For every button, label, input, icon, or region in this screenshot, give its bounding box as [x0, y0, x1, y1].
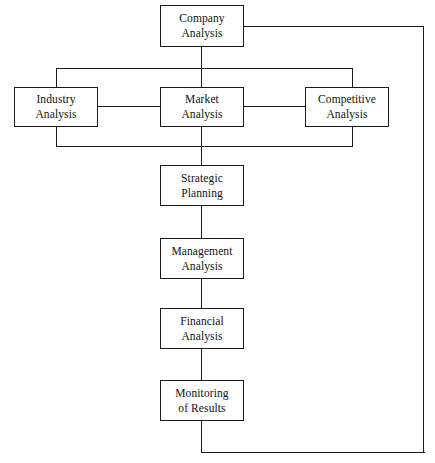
- node-competitive[interactable]: Competitive Analysis: [305, 87, 389, 127]
- node-strategic-label: Strategic Planning: [179, 171, 225, 200]
- node-market-label: Market Analysis: [179, 92, 224, 121]
- node-monitoring[interactable]: Monitoring of Results: [160, 380, 244, 421]
- node-market[interactable]: Market Analysis: [160, 87, 244, 127]
- node-management[interactable]: Management Analysis: [160, 238, 244, 279]
- connector-bracket-top-right-stem: [352, 68, 353, 87]
- flowchart-diagram: Company AnalysisIndustry AnalysisMarket …: [0, 0, 435, 463]
- connector-feedback-top-run: [244, 26, 424, 27]
- connector-market-to-competitive: [244, 106, 305, 107]
- connector-bracket-bottom-right-stem: [352, 127, 353, 146]
- connector-company-to-market: [201, 47, 202, 87]
- connector-industry-to-market: [98, 106, 160, 107]
- node-management-label: Management Analysis: [169, 244, 234, 273]
- connector-bracket-bottom-left-stem: [56, 127, 57, 146]
- node-strategic[interactable]: Strategic Planning: [160, 165, 244, 206]
- connector-bracket-bottom-line: [56, 146, 353, 147]
- node-monitoring-label: Monitoring of Results: [173, 386, 230, 415]
- connector-feedback-stem-down: [201, 421, 202, 453]
- node-company-label: Company Analysis: [177, 11, 226, 40]
- node-industry[interactable]: Industry Analysis: [14, 87, 98, 127]
- node-financial-label: Financial Analysis: [178, 314, 226, 343]
- connector-management-to-financial: [201, 279, 202, 308]
- node-company[interactable]: Company Analysis: [160, 5, 244, 47]
- connector-bracket-top-line: [56, 68, 353, 69]
- connector-financial-to-monitoring: [201, 349, 202, 380]
- connector-feedback-right-riser: [423, 26, 424, 453]
- connector-market-to-strategic: [201, 127, 202, 165]
- node-competitive-label: Competitive Analysis: [316, 92, 378, 121]
- connector-bracket-top-left-stem: [56, 68, 57, 87]
- connector-strategic-to-management: [201, 206, 202, 238]
- node-industry-label: Industry Analysis: [33, 92, 78, 121]
- node-financial[interactable]: Financial Analysis: [160, 308, 244, 349]
- connector-feedback-bottom-run: [201, 452, 425, 453]
